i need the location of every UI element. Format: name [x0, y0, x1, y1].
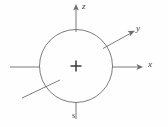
- y-axis-label: y: [136, 24, 140, 33]
- figure-canvas: z y x s: [0, 0, 168, 127]
- s-axis-label: s: [72, 112, 75, 120]
- coordinate-axes-diagram: [0, 0, 168, 127]
- x-axis-label: x: [148, 60, 152, 69]
- x-axis-arrow: [112, 64, 143, 70]
- center-plus-marker: [71, 61, 82, 72]
- y-axis-arrow: [103, 31, 135, 49]
- z-axis-label: z: [82, 2, 86, 11]
- z-axis-arrow: [73, 4, 79, 32]
